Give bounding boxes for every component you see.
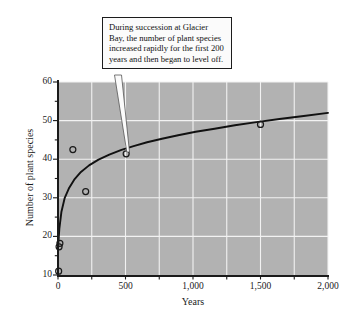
y-axis-tick-label: 10 bbox=[26, 270, 52, 280]
x-axis-title: Years bbox=[58, 296, 328, 307]
x-axis-tick-label: 1,500 bbox=[236, 281, 286, 291]
figure-container: 102030405060 05001,0001,5002,000 Years N… bbox=[0, 0, 350, 322]
x-axis-tick-label: 500 bbox=[101, 281, 151, 291]
x-axis-tick-label: 1,000 bbox=[168, 281, 218, 291]
x-axis-tick-label: 0 bbox=[33, 281, 83, 291]
y-axis-title: Number of plant species bbox=[24, 93, 35, 263]
y-axis-line bbox=[57, 80, 59, 277]
y-axis-tick-label: 60 bbox=[26, 77, 52, 87]
x-axis-tick-label: 2,000 bbox=[303, 281, 350, 291]
annotation-callout: During succession at Glacier Bay, the nu… bbox=[102, 17, 232, 69]
x-axis-line bbox=[57, 275, 329, 277]
plot-area bbox=[58, 82, 328, 275]
